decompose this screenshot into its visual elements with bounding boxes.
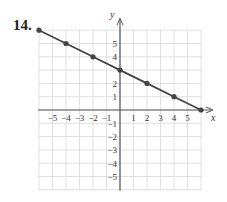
- x-tick-label: 5: [185, 113, 190, 123]
- y-tick-label: 1: [113, 92, 118, 102]
- y-tick-label: −2: [107, 132, 117, 142]
- x-tick-label: −5: [48, 113, 58, 123]
- data-point: [117, 68, 122, 73]
- x-tick-label: −4: [61, 113, 71, 123]
- x-tick-label: −2: [88, 113, 98, 123]
- y-tick-label: −4: [107, 159, 117, 169]
- data-point: [171, 94, 176, 99]
- coordinate-plane: −5−4−3−2−112345 −5−4−3−2−11245 x y: [0, 0, 227, 202]
- data-point: [63, 41, 68, 46]
- x-tick-label: 2: [145, 113, 150, 123]
- y-tick-label: −5: [107, 172, 117, 182]
- x-tick-label: 4: [172, 113, 177, 123]
- data-point: [144, 81, 149, 86]
- y-tick-label: 5: [113, 39, 118, 49]
- x-tick-labels: −5−4−3−2−112345: [48, 113, 191, 123]
- y-tick-label: −3: [107, 145, 117, 155]
- x-axis-label: x: [210, 112, 216, 123]
- x-tick-label: 3: [158, 113, 163, 123]
- y-tick-label: 4: [113, 52, 118, 62]
- data-point: [90, 54, 95, 59]
- x-tick-label: −3: [75, 113, 85, 123]
- data-point: [36, 28, 41, 33]
- y-tick-label: 2: [113, 79, 118, 89]
- x-tick-label: 1: [131, 113, 136, 123]
- data-point: [198, 107, 203, 112]
- y-axis-label: y: [109, 9, 115, 20]
- y-tick-label: −1: [107, 119, 117, 129]
